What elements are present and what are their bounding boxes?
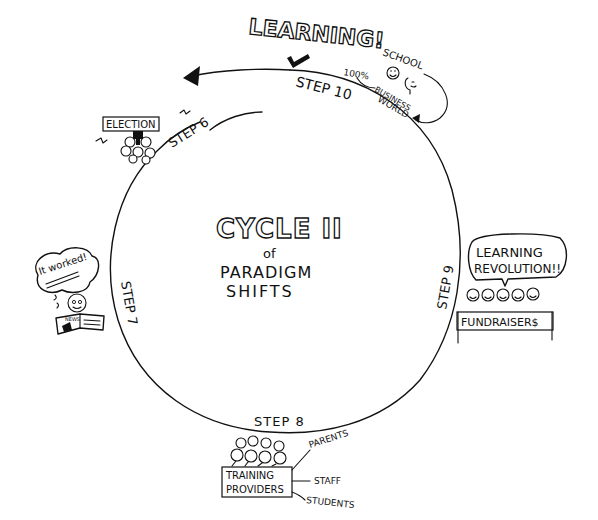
step7-group: It worked! NEWS STEP 7 [36,248,141,334]
title-paradigm: PARADIGM [220,263,312,282]
spark-icon [96,138,107,143]
staff-label: STAFF [314,476,341,486]
learning-headline: LEARNING! [247,14,385,53]
step10-group: LEARNING! STEP 10 SCHOOL 100% BUSINESS W… [247,14,447,123]
step6-group: ELECTION STEP 6 [96,110,211,164]
loop-arrow-line [416,74,447,123]
center-title-group: CYCLE II of PARADIGM SHIFTS [216,214,343,301]
step6-arc [210,112,262,130]
checkmark-icon [287,54,310,68]
step6-label: STEP 6 [166,114,212,150]
cycle-arrowhead-icon [183,66,200,86]
spark-icon [180,110,190,114]
paradigm-cycle-diagram: CYCLE II of PARADIGM SHIFTS LEARNING! ST… [0,0,598,520]
newspaper-label: NEWS [65,316,80,322]
step10-label: STEP 10 [294,73,353,102]
providers-label: PROVIDERS [226,484,284,495]
election-label: ELECTION [106,119,156,130]
students-label: STUDENTS [306,495,355,510]
step7-label: STEP 7 [118,280,141,327]
step8-label: STEP 8 [254,414,305,429]
cycle-arrow-line [192,69,290,76]
speech-line-1: LEARNING [476,245,543,260]
training-label: TRAINING [225,470,274,481]
cycle-title: CYCLE II [216,214,343,244]
step9-group: STEP 9 LEARNING REVOLUTION!! FUNDRAISER$ [434,234,566,343]
reader-face-icon [68,294,86,312]
school-face-icon [387,67,399,79]
business-face-icon [405,78,416,94]
title-of: of [263,246,276,261]
school-label: SCHOOL [381,47,425,72]
step9-label: STEP 9 [434,264,457,311]
title-shifts: SHIFTS [226,282,294,301]
cycle-circle [111,70,461,433]
fundraiser-label: FUNDRAISER$ [461,316,539,329]
ballot-icon [133,131,143,139]
speech-line-2: REVOLUTION!! [474,262,561,276]
